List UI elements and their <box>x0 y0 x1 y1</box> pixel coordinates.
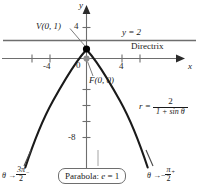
directrix-equation-label: y = 2 <box>122 28 141 37</box>
theta-right-limit: θ →−π2+ <box>147 167 175 185</box>
polar-equation: r = 2 1 + sin θ <box>139 97 188 117</box>
focus-leader-line <box>88 62 94 77</box>
vertex-point <box>83 45 90 52</box>
theta-right-denominator: 2 <box>165 175 171 183</box>
theta-left-arrow: θ → <box>2 171 16 180</box>
x-tick-label--4: -4 <box>43 62 51 71</box>
equation-fraction: 2 1 + sin θ <box>153 97 188 117</box>
caption-box: Parabola: e = 1 <box>58 168 126 184</box>
equation-lhs: r = <box>139 101 151 111</box>
y-tick-label--8: -8 <box>68 133 76 142</box>
vertex-leader-line <box>70 29 85 47</box>
x-axis-label: x <box>188 62 192 71</box>
caption-prefix: Parabola: <box>65 171 99 181</box>
theta-left-denominator: 2 <box>16 175 26 183</box>
theta-left-sign: − <box>26 169 29 175</box>
focus-label: F(0, 0) <box>89 76 114 85</box>
directrix-name-label: Directrix <box>131 42 163 51</box>
theta-right-sign: + <box>171 169 174 175</box>
theta-right-arrow: θ → <box>147 171 161 180</box>
theta-right-fraction: π2 <box>165 166 171 184</box>
x-tick-label-4: 4 <box>119 62 124 71</box>
theta-left-fraction: 3π2 <box>16 166 26 184</box>
y-axis <box>83 5 91 168</box>
theta-left-limit: θ →3π2− <box>2 167 29 185</box>
caption-eccentricity-var: e <box>101 171 105 181</box>
caption-eccentricity-value: = 1 <box>108 171 120 181</box>
vertex-label: V(0, 1) <box>36 22 61 31</box>
focus-point <box>83 55 89 61</box>
y-axis-label: y <box>79 1 83 10</box>
y-tick-label-4: 4 <box>74 22 79 31</box>
origin-label: 0 <box>76 61 81 70</box>
equation-denominator: 1 + sin θ <box>153 108 188 117</box>
polar-parabola-figure: y x 0 -4 4 4 -8 V(0, 1) F(0, 0) y = 2 Di… <box>0 0 203 191</box>
